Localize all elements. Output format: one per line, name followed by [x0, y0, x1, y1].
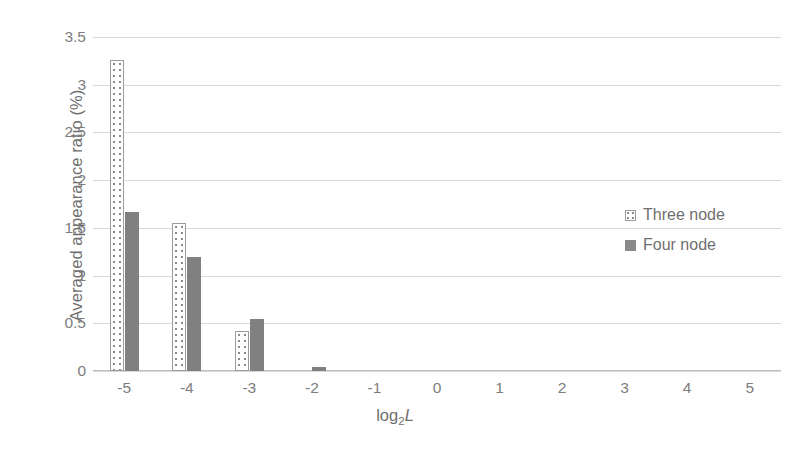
legend-item-label: Four node — [643, 236, 716, 254]
bar-four-node — [125, 212, 139, 371]
x-axis-title-variable: L — [405, 406, 414, 424]
bar-chart: Averaged appearance ratio (%) 00.511.522… — [0, 0, 790, 459]
bar-three-node — [235, 331, 249, 371]
x-axis-tick-label: 4 — [683, 379, 692, 397]
legend-item[interactable]: Four node — [625, 230, 785, 260]
x-axis-tick-label: -3 — [242, 379, 256, 397]
y-axis-tick-label: 2 — [42, 171, 86, 189]
x-axis-title: log2L — [0, 406, 790, 427]
bar-four-node — [187, 257, 201, 372]
y-axis-tick-label: 2.5 — [42, 123, 86, 141]
bar-group — [360, 37, 389, 371]
bar-three-node — [172, 223, 186, 371]
y-axis-tick-label: 1.5 — [42, 219, 86, 237]
y-axis-tick-label: 0.5 — [42, 314, 86, 332]
solid-gray-square-swatch — [625, 240, 636, 251]
x-axis-tick-label: -4 — [180, 379, 194, 397]
gridline — [93, 371, 781, 372]
y-axis-tick-label: 1 — [42, 267, 86, 285]
bar-group — [172, 37, 201, 371]
chart-legend: Three nodeFour node — [625, 200, 785, 260]
x-axis-tick-label: 3 — [620, 379, 629, 397]
legend-item-label: Three node — [643, 206, 725, 224]
y-axis-tick-label: 0 — [42, 362, 86, 380]
bar-three-node — [110, 60, 124, 371]
bar-four-node — [250, 319, 264, 371]
x-axis-tick-label: -2 — [305, 379, 319, 397]
bar-group — [548, 37, 577, 371]
bar-four-node — [312, 367, 326, 371]
bar-group — [235, 37, 264, 371]
y-axis-tick-label: 3 — [42, 76, 86, 94]
dotted-square-swatch — [625, 210, 636, 221]
legend-item[interactable]: Three node — [625, 200, 785, 230]
x-axis-tick-label: 5 — [745, 379, 754, 397]
bar-group — [297, 37, 326, 371]
x-axis-tick-label: 0 — [433, 379, 442, 397]
x-axis-tick-label: -1 — [368, 379, 382, 397]
bar-group — [485, 37, 514, 371]
x-axis-title-main: log — [376, 406, 398, 424]
x-axis-tick-label: 1 — [495, 379, 504, 397]
bar-group — [110, 37, 139, 371]
y-axis-tick-label: 3.5 — [42, 28, 86, 46]
bar-group — [423, 37, 452, 371]
y-axis-tick-labels: 00.511.522.533.5 — [38, 0, 86, 459]
x-axis-tick-label: 2 — [558, 379, 567, 397]
x-axis-tick-label: -5 — [117, 379, 131, 397]
x-axis-tick-labels: -5-4-3-2-1012345 — [93, 379, 781, 403]
